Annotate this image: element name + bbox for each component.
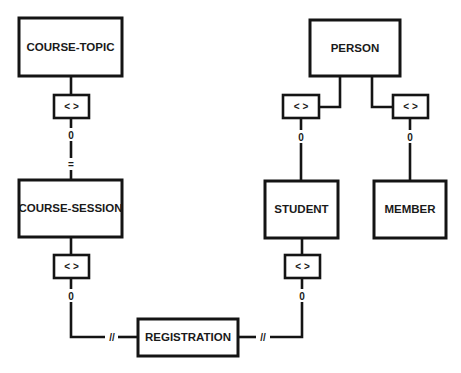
entity-label: PERSON — [331, 42, 380, 54]
relationship-symbol: < > — [403, 101, 418, 112]
entity-registration[interactable]: REGISTRATION — [138, 319, 238, 356]
optional-marker: 0 — [298, 132, 304, 143]
entity-label: STUDENT — [274, 203, 328, 215]
connector-person-student-rel — [319, 76, 340, 107]
relationship-person-member[interactable]: < > — [393, 95, 428, 118]
relationship-session-registration[interactable]: < > — [54, 255, 89, 278]
optional-marker: 0 — [68, 130, 74, 141]
connector-student-reg-b — [270, 302, 302, 337]
optional-marker: 0 — [407, 132, 413, 143]
many-marker: // — [109, 332, 115, 343]
connector-person-member-rel — [372, 76, 393, 107]
entity-course-topic[interactable]: COURSE-TOPIC — [19, 18, 122, 76]
relationship-person-student[interactable]: < > — [283, 95, 319, 118]
relationship-symbol: < > — [295, 261, 310, 272]
entity-course-session[interactable]: COURSE-SESSION — [18, 180, 122, 237]
exclusive-marker: = — [68, 159, 74, 170]
relationship-symbol: < > — [64, 101, 79, 112]
many-marker: // — [260, 332, 266, 343]
entity-label: REGISTRATION — [145, 331, 231, 343]
relationship-symbol: < > — [64, 261, 79, 272]
entity-member[interactable]: MEMBER — [374, 181, 446, 238]
optional-marker: 0 — [68, 291, 74, 302]
entity-person[interactable]: PERSON — [310, 20, 400, 76]
entity-label: COURSE-TOPIC — [27, 41, 115, 53]
optional-marker: 0 — [299, 291, 305, 302]
entity-label: COURSE-SESSION — [18, 202, 122, 214]
relationship-symbol: < > — [294, 101, 309, 112]
connector-session-reg-b — [71, 302, 105, 337]
entities: COURSE-TOPIC COURSE-SESSION REGISTRATION… — [18, 18, 446, 356]
relationship-topic-session[interactable]: < > — [54, 95, 89, 118]
entity-label: MEMBER — [384, 203, 436, 215]
relationship-student-registration[interactable]: < > — [285, 255, 320, 278]
entity-student[interactable]: STUDENT — [265, 181, 338, 238]
er-diagram: 0 = 0 // 0 0 0 // < > < > < > < > < > — [0, 0, 461, 373]
